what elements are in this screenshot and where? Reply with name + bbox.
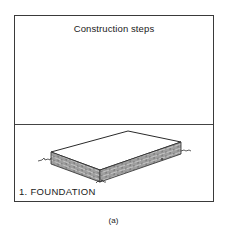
figure-caption: (a) [0,216,227,225]
foundation-illustration [0,0,227,238]
